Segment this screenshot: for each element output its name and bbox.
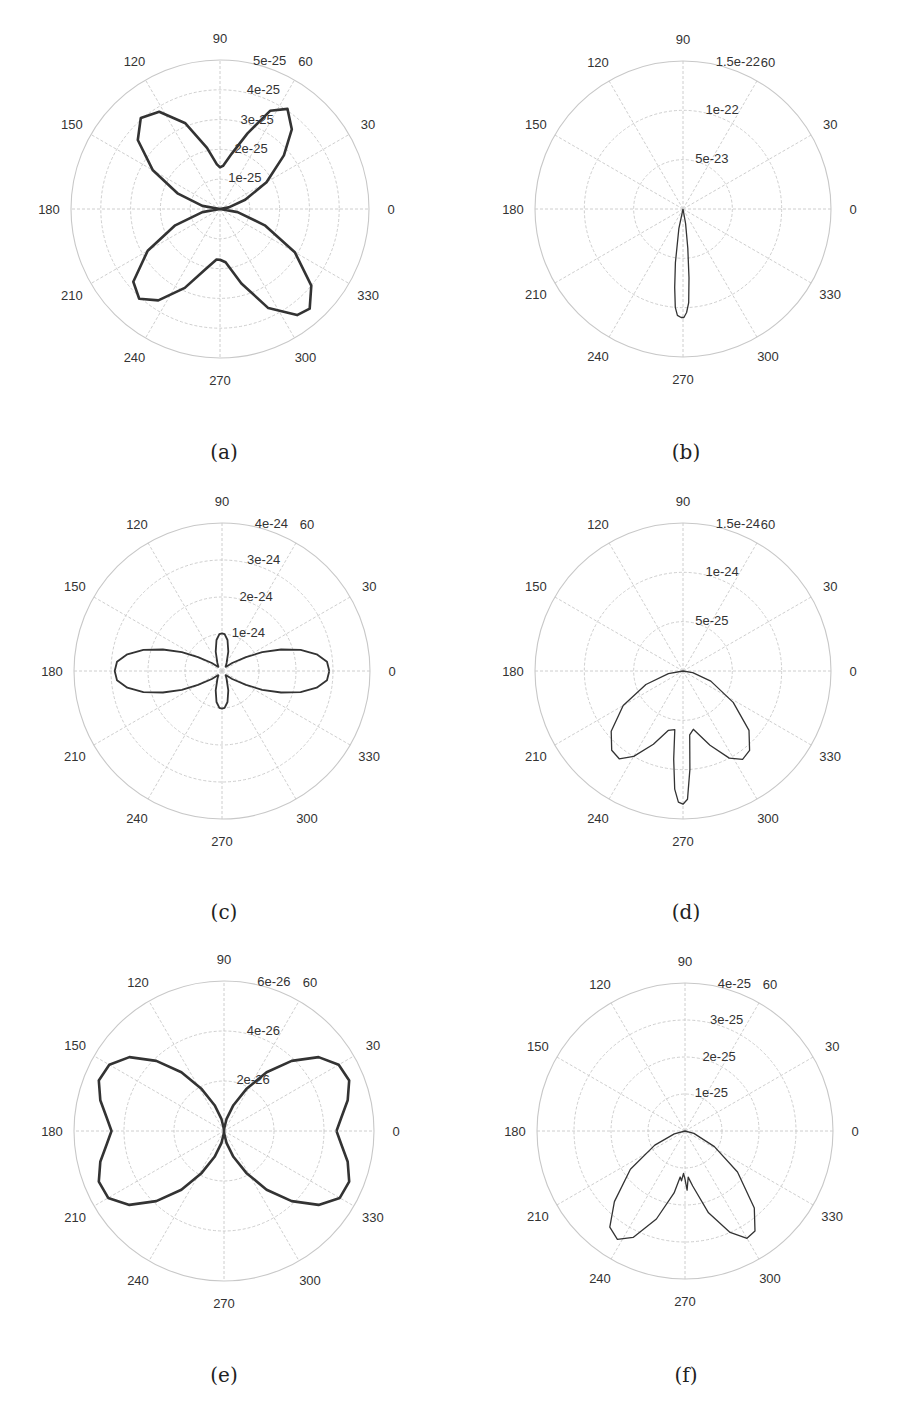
angle-tick-label: 0: [388, 664, 395, 679]
angle-tick-label: 120: [587, 517, 609, 532]
angle-tick-label: 90: [217, 952, 231, 967]
angular-gridline: [609, 671, 683, 799]
angle-tick-label: 300: [757, 349, 779, 364]
angle-tick-label: 300: [296, 811, 318, 826]
angle-tick-label: 150: [61, 117, 83, 132]
polar-panel-e: 03060901201501802102402703003302e-264e-2…: [41, 952, 399, 1311]
radial-tick-label: 1e-24: [706, 564, 739, 579]
angle-tick-label: 120: [587, 55, 609, 70]
angle-tick-label: 60: [761, 517, 775, 532]
pattern-curve: [611, 671, 749, 804]
angle-tick-label: 270: [213, 1296, 235, 1311]
angle-tick-label: 60: [763, 977, 777, 992]
polar-panel-c: 03060901201501802102402703003301e-242e-2…: [41, 494, 395, 849]
angle-tick-label: 240: [589, 1271, 611, 1286]
radial-tick-label: 3e-24: [247, 552, 280, 567]
angle-tick-label: 150: [525, 579, 547, 594]
angular-gridline: [220, 209, 295, 338]
angular-gridline: [683, 209, 757, 337]
angle-tick-label: 150: [64, 1038, 86, 1053]
angular-gridline: [683, 597, 811, 671]
polar-panel-d: 03060901201501802102402703003305e-251e-2…: [502, 494, 856, 849]
angular-gridline: [557, 1131, 685, 1205]
angle-tick-label: 90: [676, 494, 690, 509]
panel-label-f: (f): [674, 1363, 697, 1387]
angular-gridline: [611, 1003, 685, 1131]
panel-label-b: (b): [672, 440, 700, 464]
angle-tick-label: 30: [823, 579, 837, 594]
angular-gridline: [609, 209, 683, 337]
angle-tick-label: 180: [41, 664, 63, 679]
radial-tick-label: 4e-26: [247, 1023, 280, 1038]
angle-tick-label: 120: [126, 517, 148, 532]
angular-gridline: [683, 543, 757, 671]
angle-tick-label: 240: [126, 811, 148, 826]
pattern-curve: [133, 109, 311, 315]
angular-gridline: [220, 209, 349, 284]
panel-label-e: (e): [210, 1363, 237, 1387]
angular-gridline: [683, 81, 757, 209]
figure: 03060901201501802102402703003301e-252e-2…: [0, 0, 899, 1423]
angle-tick-label: 30: [825, 1039, 839, 1054]
angular-gridline: [224, 1001, 299, 1131]
radial-tick-label: 2e-25: [702, 1049, 735, 1064]
angle-tick-label: 240: [587, 349, 609, 364]
radial-tick-label: 3e-25: [710, 1012, 743, 1027]
angle-tick-label: 270: [672, 372, 694, 387]
angle-tick-label: 90: [215, 494, 229, 509]
angle-tick-label: 240: [124, 350, 146, 365]
angle-tick-label: 330: [358, 749, 380, 764]
angle-tick-label: 210: [64, 1210, 86, 1225]
angular-gridline: [685, 1131, 813, 1205]
angle-tick-label: 0: [392, 1124, 399, 1139]
angle-tick-label: 120: [589, 977, 611, 992]
angle-tick-label: 150: [525, 117, 547, 132]
angle-tick-label: 300: [295, 350, 317, 365]
angle-tick-label: 90: [678, 954, 692, 969]
angle-tick-label: 270: [209, 373, 231, 388]
radial-tick-label: 1.5e-22: [716, 54, 760, 69]
angle-tick-label: 120: [127, 975, 149, 990]
angular-gridline: [146, 209, 221, 338]
angle-tick-label: 210: [64, 749, 86, 764]
angle-tick-label: 270: [211, 834, 233, 849]
angle-tick-label: 0: [849, 664, 856, 679]
angle-tick-label: 30: [823, 117, 837, 132]
angle-tick-label: 90: [213, 31, 227, 46]
radial-tick-label: 4e-25: [718, 976, 751, 991]
angle-tick-label: 180: [41, 1124, 63, 1139]
polar-plots: 03060901201501802102402703003301e-252e-2…: [0, 0, 899, 1423]
angular-gridline: [146, 80, 221, 209]
angle-tick-label: 60: [298, 54, 312, 69]
angle-tick-label: 30: [366, 1038, 380, 1053]
angular-gridline: [609, 81, 683, 209]
angle-tick-label: 150: [64, 579, 86, 594]
angular-gridline: [148, 543, 222, 671]
angular-gridline: [555, 209, 683, 283]
radial-tick-label: 6e-26: [257, 974, 290, 989]
polar-panel-b: 03060901201501802102402703003305e-231e-2…: [502, 32, 856, 387]
angle-tick-label: 60: [761, 55, 775, 70]
angle-tick-label: 330: [819, 749, 841, 764]
panel-label-d: (d): [672, 900, 700, 924]
angular-gridline: [611, 1131, 685, 1259]
angle-tick-label: 330: [819, 287, 841, 302]
angle-tick-label: 150: [527, 1039, 549, 1054]
angle-tick-label: 240: [127, 1273, 149, 1288]
angle-tick-label: 180: [502, 664, 524, 679]
radial-tick-label: 1.5e-24: [716, 516, 760, 531]
radial-tick-label: 2e-24: [239, 589, 272, 604]
polar-panel-a: 03060901201501802102402703003301e-252e-2…: [38, 31, 394, 388]
angle-tick-label: 210: [61, 288, 83, 303]
angle-tick-label: 330: [821, 1209, 843, 1224]
radial-tick-label: 1e-25: [695, 1085, 728, 1100]
angular-gridline: [683, 209, 811, 283]
radial-tick-label: 1e-22: [706, 102, 739, 117]
angle-tick-label: 0: [849, 202, 856, 217]
angle-tick-label: 180: [504, 1124, 526, 1139]
panel-label-c: (c): [211, 900, 238, 924]
angle-tick-label: 330: [357, 288, 379, 303]
angular-gridline: [148, 671, 222, 799]
angle-tick-label: 180: [38, 202, 60, 217]
radial-tick-label: 5e-25: [695, 613, 728, 628]
